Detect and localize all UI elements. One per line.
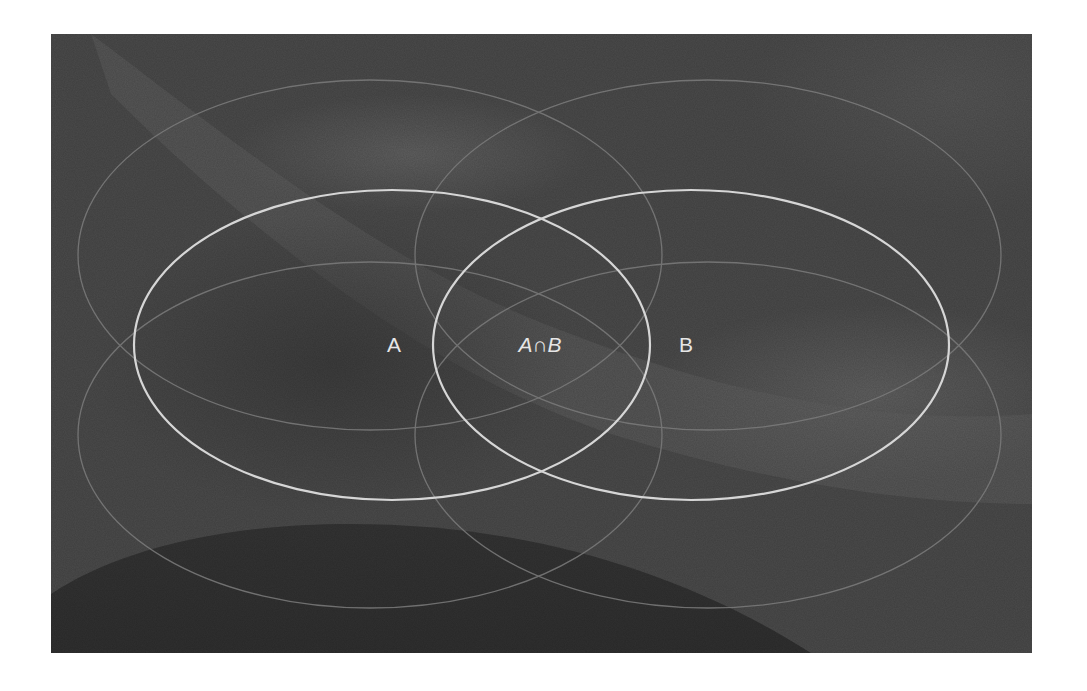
set-b-label: B — [679, 333, 693, 357]
set-a-label: A — [387, 333, 401, 357]
page-background: A A∩B B — [0, 0, 1087, 691]
venn-diagram-panel: A A∩B B — [51, 34, 1032, 653]
intersection-label: A∩B — [518, 333, 561, 357]
